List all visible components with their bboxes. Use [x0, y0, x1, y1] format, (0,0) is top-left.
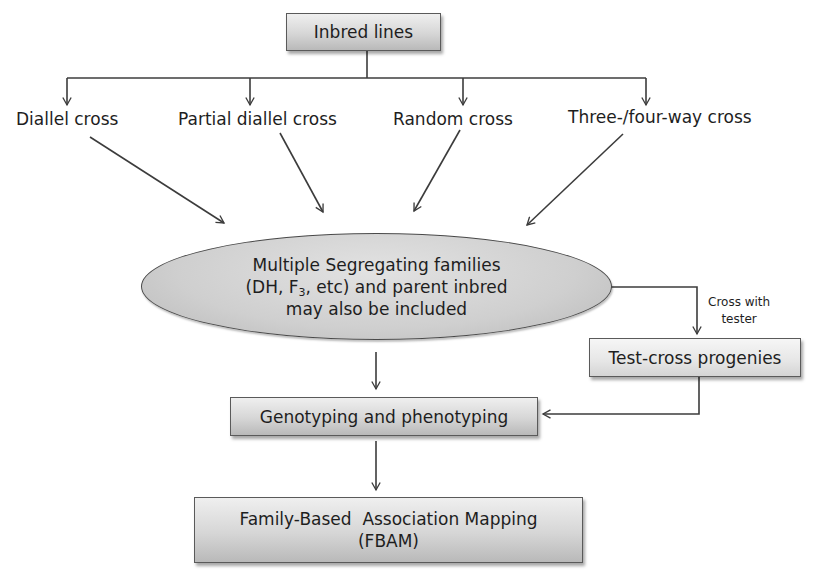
- arrow-partial-to-families: [280, 133, 323, 212]
- label-random-cross: Random cross: [393, 109, 513, 129]
- edge-label-line-1: Cross with: [708, 294, 770, 311]
- arrow-diallel-to-families: [90, 137, 224, 223]
- edge-label-cross-with-tester: Cross with tester: [708, 294, 770, 328]
- node-fbam-line-1: Family-Based Association Mapping: [239, 508, 537, 530]
- families-line-2: (DH, F3, etc) and parent inbred: [245, 276, 507, 298]
- node-test-cross-progenies: Test-cross progenies: [589, 338, 801, 377]
- node-inbred-lines: Inbred lines: [286, 13, 441, 51]
- node-fbam: Family-Based Association Mapping (FBAM): [194, 497, 583, 563]
- families-line-2-suffix: , etc) and parent inbred: [306, 277, 508, 297]
- families-line-3: may also be included: [286, 298, 467, 320]
- label-diallel-cross: Diallel cross: [16, 109, 118, 129]
- families-line-2-prefix: (DH, F: [245, 277, 298, 297]
- node-fbam-line-2: (FBAM): [358, 530, 419, 552]
- arrow-threefour-to-families: [527, 134, 623, 225]
- arrow-families-to-testcross: [611, 287, 697, 334]
- node-segregating-families: Multiple Segregating families (DH, F3, e…: [141, 233, 612, 340]
- node-genotyping-phenotyping: Genotyping and phenotyping: [230, 397, 538, 436]
- node-genotyping-label: Genotyping and phenotyping: [260, 406, 508, 428]
- arrow-random-to-families: [414, 130, 460, 211]
- flowchart-canvas: Inbred lines Diallel cross Partial diall…: [0, 0, 826, 584]
- families-line-1: Multiple Segregating families: [252, 254, 500, 276]
- label-partial-diallel-cross: Partial diallel cross: [178, 109, 337, 129]
- node-test-cross-label: Test-cross progenies: [609, 347, 782, 369]
- arrow-testcross-to-genotyping: [543, 377, 699, 414]
- edge-label-line-2: tester: [708, 311, 770, 328]
- label-three-four-way-cross: Three-/four-way cross: [568, 107, 752, 127]
- node-inbred-lines-label: Inbred lines: [314, 21, 413, 43]
